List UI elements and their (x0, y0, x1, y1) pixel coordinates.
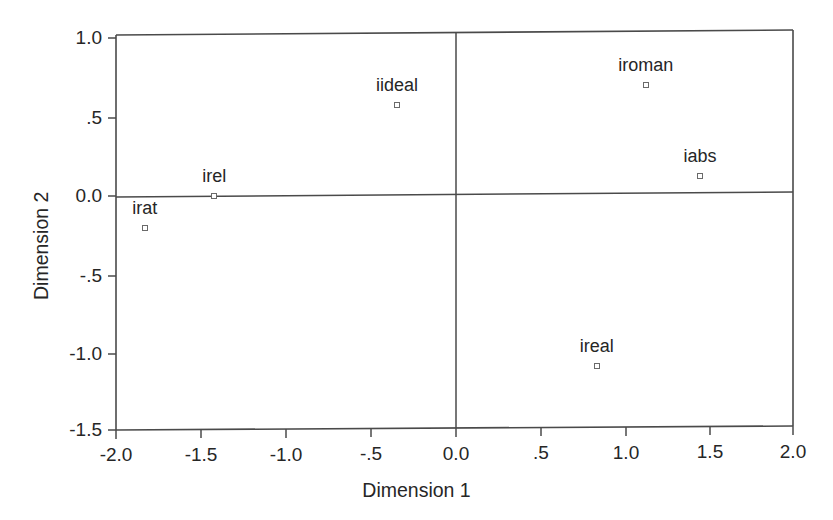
data-points-layer: iratireliidealiromaniabsireal (0, 0, 833, 520)
point-label-iroman: iroman (618, 55, 673, 76)
point-label-irat: irat (132, 197, 157, 218)
data-point-marker-ireal[interactable] (594, 363, 600, 369)
point-label-ireal: ireal (580, 335, 614, 356)
data-point-marker-iideal[interactable] (394, 102, 400, 108)
scatter-plot-figure: 1.0 .5 0.0 -.5 -1.0 -1.5 -2.0 -1.5 -1.0 … (0, 0, 833, 520)
point-label-iideal: iideal (376, 75, 418, 96)
data-point-marker-irel[interactable] (211, 193, 217, 199)
point-label-irel: irel (202, 166, 226, 187)
data-point-marker-iroman[interactable] (643, 82, 649, 88)
point-label-iabs: iabs (683, 145, 716, 166)
data-point-marker-irat[interactable] (142, 225, 148, 231)
data-point-marker-iabs[interactable] (697, 173, 703, 179)
